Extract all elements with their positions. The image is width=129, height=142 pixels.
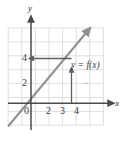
origin-tick-label: 0: [24, 106, 29, 116]
y-axis-label: y: [28, 4, 32, 13]
x-tick-label-2: 2: [46, 106, 51, 116]
y-tick-label-2: 2: [22, 78, 27, 88]
function-graph-figure: y x 0 2 3 4 2 4 y = f(x): [0, 0, 129, 142]
x-tick-label-4: 4: [74, 106, 79, 116]
graph-canvas: [0, 0, 129, 142]
function-label: y = f(x): [71, 61, 100, 71]
y-tick-label-4: 4: [22, 53, 27, 63]
axes: [8, 22, 108, 130]
x-axis-label: x: [115, 99, 119, 108]
x-tick-label-3: 3: [60, 106, 65, 116]
